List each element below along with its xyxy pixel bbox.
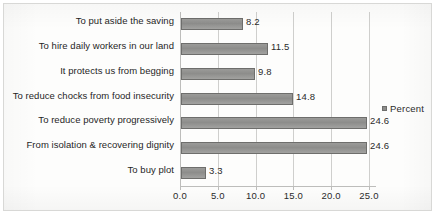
bar-row: 14.8 [180,87,369,112]
xtick-label: 0.0 [173,190,187,201]
bar[interactable] [181,68,255,80]
gridline-25 [369,12,370,186]
bar-row: 3.3 [180,161,369,186]
category-label: To reduce chocks from food insecurity [13,90,174,101]
bar[interactable] [181,142,367,154]
category-label: To buy plot [128,164,175,175]
bar-value-label: 24.6 [370,115,389,126]
category-slot: To buy plot [4,161,174,186]
bar[interactable] [181,167,206,179]
category-slot: From isolation & recovering dignity [4,136,174,161]
bar-row: 24.6 [180,111,369,136]
bar-row: 24.6 [180,136,369,161]
xtick-label: 20.0 [322,190,341,201]
xtick-label: 5.0 [211,190,225,201]
bar-value-label: 9.8 [258,66,272,77]
category-label: To put aside the saving [76,15,174,26]
bar-value-label: 3.3 [209,165,223,176]
category-label: To reduce poverty progressively [38,114,174,125]
bar-row: 9.8 [180,62,369,87]
xtick-label: 15.0 [284,190,303,201]
bar[interactable] [181,18,243,30]
category-label: It protects us from begging [60,65,174,76]
xtick-label: 10.0 [246,190,265,201]
bar[interactable] [181,117,367,129]
chart-legend[interactable]: Percent [382,103,424,114]
bar[interactable] [181,43,268,55]
legend-label: Percent [390,103,424,114]
category-slot: To reduce poverty progressively [4,111,174,136]
category-label: From isolation & recovering dignity [27,139,174,150]
chart-frame: To put aside the saving To hire daily wo… [3,3,432,211]
bar-value-label: 8.2 [246,16,260,27]
category-label: To hire daily workers in our land [39,40,174,51]
category-slot: It protects us from begging [4,62,174,87]
plot-area: 8.2 11.5 9.8 14.8 24.6 24.6 3.3 [180,12,369,186]
category-slot: To reduce chocks from food insecurity [4,87,174,112]
bar-value-label: 14.8 [296,91,315,102]
bar-row: 11.5 [180,37,369,62]
legend-swatch-icon [382,106,387,111]
bar-row: 8.2 [180,12,369,37]
category-slot: To put aside the saving [4,12,174,37]
bar[interactable] [181,93,293,105]
bar-value-label: 11.5 [271,41,290,52]
category-axis-labels: To put aside the saving To hire daily wo… [4,12,178,186]
value-axis-tick-labels: 0.0 5.0 10.0 15.0 20.0 25.0 [180,190,380,204]
xtick-label: 25.0 [359,190,378,201]
bar-value-label: 24.6 [370,140,389,151]
category-slot: To hire daily workers in our land [4,37,174,62]
category-axis-line [180,186,376,187]
